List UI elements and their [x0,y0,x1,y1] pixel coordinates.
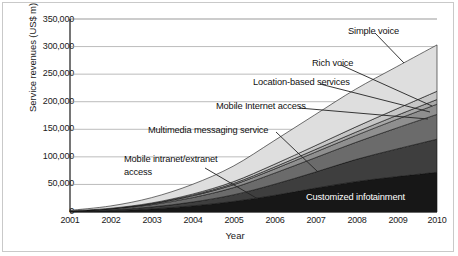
annotation-mobile-internet: Mobile Internet access [216,101,306,111]
annotation-rich-voice: Rich voice [312,58,353,68]
annotation-mms: Multimedia messaging service [148,125,268,135]
annotation-customized-infotainment: Customized infotainment [306,192,405,202]
chart-figure: Service revenues (US$ m) 350,000 300,000… [0,0,458,256]
annotation-location-based: Location-based services [253,77,350,87]
annotation-simple-voice: Simple voice [348,26,399,36]
annotation-mobile-intranet: Mobile intranet/extranet [124,154,218,164]
annotation-mobile-intranet-line2: access [124,167,152,177]
